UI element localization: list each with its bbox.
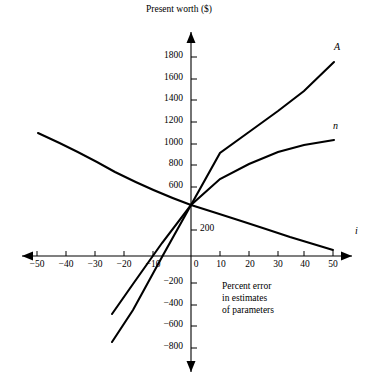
plot-area xyxy=(0,0,372,386)
x-axis-title-line2: in estimates xyxy=(222,293,274,305)
ytick-neg200: −200 xyxy=(143,276,183,286)
xtick-30: 30 xyxy=(264,259,292,269)
curve-i xyxy=(38,133,333,250)
ytick-neg400: −400 xyxy=(143,298,183,308)
xtick-40: 40 xyxy=(291,259,319,269)
chart-figure: Present worth ($) xyxy=(0,0,372,386)
y-axis-down-arrow xyxy=(187,361,196,372)
ytick-1800: 1800 xyxy=(143,50,183,60)
ytick-1600: 1600 xyxy=(143,72,183,82)
ytick-1200: 1200 xyxy=(143,115,183,125)
y-axis-up-arrow xyxy=(187,32,196,43)
xtick-neg40: −40 xyxy=(52,259,80,269)
xtick-50: 50 xyxy=(319,259,347,269)
xtick-neg50: −50 xyxy=(23,259,51,269)
x-axis-title-line1: Percent error xyxy=(222,281,274,293)
ytick-200: 200 xyxy=(200,223,214,233)
ytick-neg800: −800 xyxy=(143,341,183,351)
xtick-neg20: −20 xyxy=(110,259,138,269)
x-axis-title-line3: of parameters xyxy=(222,305,274,317)
curve-label-A: A xyxy=(334,41,340,52)
xtick-neg30: −30 xyxy=(81,259,109,269)
ytick-neg600: −600 xyxy=(143,319,183,329)
curve-label-n: n xyxy=(333,120,338,131)
xtick-10: 10 xyxy=(207,259,235,269)
ytick-1000: 1000 xyxy=(143,137,183,147)
ytick-600: 600 xyxy=(143,180,183,190)
xtick-neg10: −10 xyxy=(139,259,167,269)
curve-label-i: i xyxy=(355,225,358,236)
ytick-1400: 1400 xyxy=(143,93,183,103)
xtick-0: 0 xyxy=(182,259,210,269)
ytick-800: 800 xyxy=(143,158,183,168)
x-axis-title: Percent error in estimates of parameters xyxy=(222,281,274,317)
xtick-20: 20 xyxy=(236,259,264,269)
